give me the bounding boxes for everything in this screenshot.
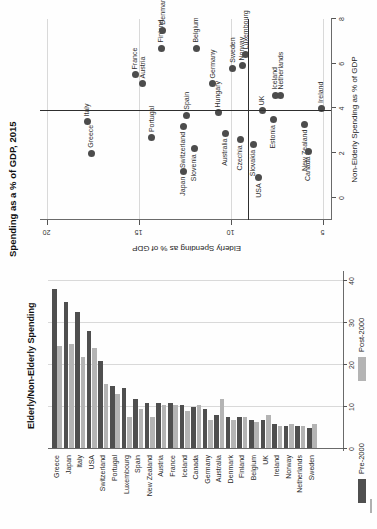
bar-post-2000 xyxy=(266,415,271,449)
bar-post-2000 xyxy=(220,399,225,449)
bar-post-2000 xyxy=(69,344,74,449)
scatter-dot-label: Japan xyxy=(179,177,186,196)
bar-post-2000 xyxy=(312,424,317,449)
scatter-y-tick xyxy=(139,220,140,225)
bar-row-label: Australia xyxy=(215,455,222,525)
scatter-dot xyxy=(158,45,165,52)
bar-pre-2000 xyxy=(52,289,57,449)
scatter-dot-label: Australia xyxy=(221,139,228,166)
bar-post-2000 xyxy=(301,426,306,449)
bar-row-label: Luxembourg xyxy=(123,455,130,525)
bar-row-label: France xyxy=(169,455,176,525)
scatter-y-axis-title: Elderly Spending as % of GDP xyxy=(117,244,257,253)
scatter-x-tick-label: 2 xyxy=(338,145,345,161)
bar-category-axis-line xyxy=(48,448,344,449)
bar-post-2000 xyxy=(150,418,155,450)
bar-axis-tick-label: 40 xyxy=(348,273,355,289)
bar-pre-2000 xyxy=(64,302,69,449)
scatter-x-axis-title: Non-Elderly Spending as % of GDP xyxy=(350,19,359,220)
bar-pre-2000 xyxy=(191,407,196,449)
bar-axis-tick xyxy=(343,406,347,407)
bar-post-2000 xyxy=(208,420,213,449)
scatter-dot-label: Slovakia xyxy=(249,150,256,176)
scatter-x-tick-label: 4 xyxy=(338,101,345,117)
scatter-dot xyxy=(193,45,200,52)
scatter-dot-label: Switzerland xyxy=(179,132,186,168)
bar-pre-2000 xyxy=(110,386,115,449)
scatter-title: Spending as a % of GDP, 2015 xyxy=(7,121,18,257)
bar-pre-2000 xyxy=(156,403,161,449)
bar-post-2000 xyxy=(185,411,190,449)
scatter-dot-label: Spain xyxy=(183,92,190,110)
bar-post-2000 xyxy=(115,394,120,449)
scatter-dot xyxy=(237,136,244,143)
scatter-dot xyxy=(222,130,229,137)
bar-row-label: Finland xyxy=(238,455,245,525)
scatter-dot-label: Sweden xyxy=(229,37,236,62)
scatter-dot-label: USA xyxy=(255,183,262,197)
scatter-dot-label: Belgium xyxy=(192,17,199,42)
bar-post-2000 xyxy=(81,357,86,449)
scatter-dot-label: France xyxy=(131,48,138,70)
bar-post-2000 xyxy=(289,424,294,449)
scatter-y-tick-label: 20 xyxy=(38,229,56,236)
caption-fragment-mark xyxy=(370,499,372,513)
bar-row-label: New Zealand xyxy=(146,455,153,525)
bar-pre-2000 xyxy=(249,420,254,449)
bar-gridline xyxy=(48,280,343,281)
scatter-x-tick-label: 8 xyxy=(338,11,345,27)
scatter-plot-panel: Spending as a % of GDP, 2015 xyxy=(0,0,377,265)
scatter-y-axis-line xyxy=(40,219,332,220)
scatter-reference-vline xyxy=(40,110,331,111)
scatter-dot-label: Denmark xyxy=(159,0,166,25)
scatter-dot xyxy=(270,116,277,123)
scatter-x-tick-label: 0 xyxy=(338,190,345,206)
bar-pre-2000 xyxy=(87,331,92,449)
bar-pre-2000 xyxy=(261,420,266,449)
bar-row-label: Canada xyxy=(192,455,199,525)
scatter-dot xyxy=(180,123,187,130)
scatter-dot-label: Hungary xyxy=(214,81,221,107)
bar-row-label: Switzerland xyxy=(99,455,106,525)
bar-row-label: Portugal xyxy=(111,455,118,525)
scatter-dot-label: Netherlands xyxy=(277,52,284,90)
bar-row-label: Sweden xyxy=(308,455,315,525)
scatter-y-gridline xyxy=(323,19,324,220)
bar-row-label: Germany xyxy=(204,455,211,525)
bar-row-label: Iceland xyxy=(181,455,188,525)
bar-row-label: Greece xyxy=(53,455,60,525)
bar-axis-tick xyxy=(343,322,347,323)
bar-post-2000 xyxy=(162,405,167,449)
scatter-dot xyxy=(277,92,284,99)
bar-pre-2000 xyxy=(284,426,289,449)
document-page: Elderly/Non-Elderly Spending GreeceJapan… xyxy=(0,0,377,529)
bar-axis-tick-label: 10 xyxy=(348,399,355,415)
bar-pre-2000 xyxy=(272,424,277,449)
scatter-x-tick-label: 6 xyxy=(338,56,345,72)
scatter-y-tick xyxy=(47,220,48,225)
scatter-dot-label: Canada xyxy=(304,157,311,182)
bar-pre-2000 xyxy=(237,418,242,450)
bar-post-2000 xyxy=(173,405,178,449)
bar-pre-2000 xyxy=(98,361,103,449)
scatter-y-gridline xyxy=(139,19,140,220)
scatter-dot xyxy=(180,168,187,175)
scatter-y-tick xyxy=(323,220,324,225)
bar-post-2000 xyxy=(254,422,259,449)
scatter-x-axis-line xyxy=(331,18,332,220)
bar-row-label: Ireland xyxy=(273,455,280,525)
bar-row-label: USA xyxy=(88,455,95,525)
bar-post-2000 xyxy=(92,348,97,449)
bar-pre-2000 xyxy=(122,388,127,449)
bar-pre-2000 xyxy=(75,313,80,450)
bar-post-2000 xyxy=(127,418,132,450)
bar-axis-tick xyxy=(343,448,347,449)
bar-row-label: Netherlands xyxy=(296,455,303,525)
bar-post-2000 xyxy=(139,409,144,449)
scatter-reference-hline xyxy=(248,19,249,220)
scatter-dot xyxy=(88,150,95,157)
bar-row-label: Denmark xyxy=(227,455,234,525)
bar-value-axis-line xyxy=(343,271,344,451)
bar-pre-2000 xyxy=(168,403,173,449)
scatter-dot-label: Ireland xyxy=(317,82,324,103)
